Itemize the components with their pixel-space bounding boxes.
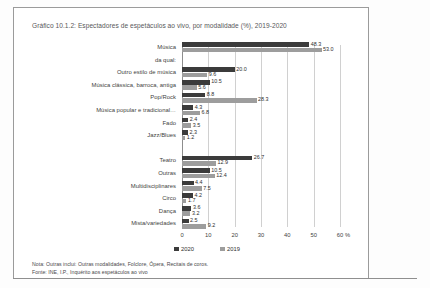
category-labels-column: Músicada qual:Outro estilo de músicaMúsi…: [22, 41, 180, 231]
category-label: Teatro: [160, 154, 177, 167]
category-label: Circo: [162, 192, 176, 205]
source-text: Fonte: INE, I.P., Inquérito aos espetácu…: [32, 269, 362, 277]
bar-row: 48.353.0: [182, 41, 360, 54]
category-row: Música popular e tradicional…: [22, 104, 180, 117]
category-row: da qual:: [22, 54, 180, 67]
bar-pair: 2.43.5: [182, 117, 340, 130]
bar-2019[interactable]: [182, 111, 200, 116]
bar-value-2019: 6.8: [201, 110, 209, 115]
category-label: Dança: [159, 205, 176, 218]
bar-row: 2.43.5: [182, 117, 360, 130]
legend-label: 2019: [227, 246, 240, 252]
bar-value-2019: 28.3: [258, 97, 269, 102]
bar-pair: 8.828.3: [182, 91, 340, 104]
category-row: [22, 142, 180, 155]
bar-2020[interactable]: [182, 42, 309, 47]
chart-legend: 20202019: [14, 246, 369, 252]
bar-value-2020: 26.7: [254, 155, 265, 160]
bar-pair: 2.59.2: [182, 217, 340, 230]
bars-column: 48.353.020.09.610.55.68.828.34.36.82.43.…: [182, 41, 360, 231]
note-text: Nota: Outras inclui: Outras modalidades,…: [32, 261, 362, 269]
bar-2019[interactable]: [182, 136, 185, 141]
bar-value-2019: 7.5: [203, 186, 211, 191]
bar-pair: 4.36.8: [182, 104, 340, 117]
bar-pair: 3.63.2: [182, 205, 340, 218]
plot-area: Músicada qual:Outro estilo de músicaMúsi…: [22, 41, 362, 231]
bar-2019[interactable]: [182, 174, 215, 179]
bar-value-2020: 20.0: [236, 67, 247, 72]
bar-2019[interactable]: [182, 211, 190, 216]
x-tick-label: 60: [337, 232, 343, 238]
x-tick-label: 40: [284, 232, 290, 238]
bar-2019[interactable]: [182, 48, 322, 53]
bar-value-2020: 4.4: [195, 180, 203, 185]
category-label: Mista/variedades: [131, 217, 176, 230]
category-row: Outro estilo de música: [22, 66, 180, 79]
bar-2019[interactable]: [182, 199, 186, 204]
bar-value-2019: 12.9: [217, 160, 228, 165]
bar-2020[interactable]: [182, 181, 194, 186]
category-row: Jazz/Blues: [22, 129, 180, 142]
bar-row: 2.59.2: [182, 217, 360, 230]
bar-2020[interactable]: [182, 105, 193, 110]
legend-item-2020[interactable]: 2020: [174, 246, 194, 252]
bar-row: 10.512.4: [182, 167, 360, 180]
bar-2019[interactable]: [182, 123, 191, 128]
x-tick-label: 10: [205, 232, 211, 238]
bar-value-2019: 9.6: [209, 72, 217, 77]
bar-2020[interactable]: [182, 219, 189, 224]
x-axis-unit-label: %: [345, 232, 350, 238]
bar-row: 3.63.2: [182, 205, 360, 218]
chart-title: Gráfico 10.1.2: Espectadores de espetácu…: [32, 22, 362, 30]
bar-row: 2.31.2: [182, 129, 360, 142]
bar-2019[interactable]: [182, 73, 207, 78]
bar-2019[interactable]: [182, 224, 206, 229]
bar-2019[interactable]: [182, 98, 257, 103]
bar-value-2020: 2.5: [190, 218, 198, 223]
bar-2020[interactable]: [182, 118, 188, 123]
bar-pair: [182, 142, 340, 155]
bar-row: 4.36.8: [182, 104, 360, 117]
category-row: Mista/variedades: [22, 217, 180, 230]
bottom-rule: [13, 278, 417, 279]
chart-notes: Nota: Outras inclui: Outras modalidades,…: [32, 261, 362, 276]
bar-value-2020: 10.5: [211, 79, 222, 84]
bar-2019[interactable]: [182, 186, 202, 191]
bar-value-2019: 1.7: [188, 198, 196, 203]
bar-2020[interactable]: [182, 168, 210, 173]
bar-pair: [182, 54, 340, 67]
category-row: Dança: [22, 205, 180, 218]
category-label: Multidisciplinares: [131, 180, 176, 193]
legend-swatch-icon: [174, 247, 179, 252]
bar-row: 4.21.7: [182, 192, 360, 205]
category-label: Jazz/Blues: [147, 129, 176, 142]
legend-item-2019[interactable]: 2019: [220, 246, 240, 252]
category-row: Outras: [22, 167, 180, 180]
category-label: Música popular e tradicional…: [96, 104, 176, 117]
bar-value-2020: 48.3: [311, 42, 322, 47]
x-tick-label: 30: [258, 232, 264, 238]
bar-2019[interactable]: [182, 161, 216, 166]
category-row: Música: [22, 41, 180, 54]
bar-2019[interactable]: [182, 85, 197, 90]
bar-2020[interactable]: [182, 206, 191, 211]
bar-pair: 26.712.9: [182, 154, 340, 167]
x-axis: 0102030405060%: [182, 232, 362, 244]
category-row: Fado: [22, 117, 180, 130]
x-tick-label: 20: [231, 232, 237, 238]
category-row: Circo: [22, 192, 180, 205]
category-label: da qual:: [155, 54, 176, 67]
bar-value-2019: 9.2: [208, 223, 216, 228]
category-row: Música clássica, barroca, antiga: [22, 79, 180, 92]
bar-value-2019: 3.2: [192, 211, 200, 216]
bar-pair: 10.55.6: [182, 79, 340, 92]
chart-frame: Gráfico 10.1.2: Espectadores de espetácu…: [13, 7, 369, 279]
category-label: Outro estilo de música: [117, 66, 176, 79]
category-label: Fado: [162, 117, 176, 130]
bar-2020[interactable]: [182, 93, 205, 98]
bar-pair: 4.47.5: [182, 180, 340, 193]
bar-row: 4.47.5: [182, 180, 360, 193]
bar-pair: 48.353.0: [182, 41, 340, 54]
bar-value-2020: 8.8: [207, 92, 215, 97]
bar-value-2019: 5.6: [198, 85, 206, 90]
